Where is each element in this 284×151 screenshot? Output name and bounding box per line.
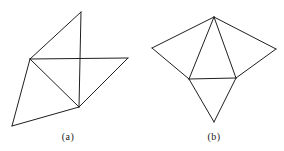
edge-mid_left-mid_right	[189, 78, 236, 79]
edge-left_mid-right	[30, 58, 128, 59]
edge-right-mid_right	[236, 49, 276, 78]
edge-top-mid_left	[189, 17, 214, 79]
edge-bottom_left-bottom_mid	[12, 107, 79, 126]
figure-a-label: (a)	[62, 131, 75, 142]
edge-top-left	[152, 17, 214, 48]
figure-b	[152, 17, 276, 122]
edge-left-mid_left	[152, 48, 189, 79]
edge-left_mid-bottom_mid	[30, 59, 79, 107]
figure-a	[12, 12, 128, 126]
edge-mid_right-bottom	[214, 78, 236, 122]
figure-diagram: (a) (b)	[0, 0, 284, 151]
edge-left_mid-bottom_left	[12, 59, 30, 126]
edge-right-bottom_mid	[79, 58, 128, 107]
edge-top-bottom_mid	[79, 12, 81, 107]
edge-mid_left-bottom	[189, 79, 214, 122]
geometry-canvas	[0, 0, 284, 151]
figure-b-label: (b)	[207, 131, 220, 142]
edge-top-left_mid	[30, 12, 81, 59]
